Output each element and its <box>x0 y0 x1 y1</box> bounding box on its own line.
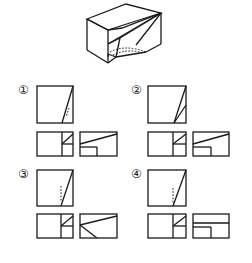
option-4-label[interactable]: ④ <box>131 168 142 180</box>
option-2-drawing[interactable] <box>148 86 229 156</box>
diagram-canvas <box>0 0 252 263</box>
option-4-drawing[interactable] <box>148 170 229 238</box>
option-3-label[interactable]: ③ <box>18 168 29 180</box>
isometric-figure <box>87 4 161 63</box>
option-2-label[interactable]: ② <box>131 84 142 96</box>
option-1-label[interactable]: ① <box>18 84 29 96</box>
option-1-drawing[interactable] <box>37 86 117 156</box>
option-3-drawing[interactable] <box>37 170 117 238</box>
